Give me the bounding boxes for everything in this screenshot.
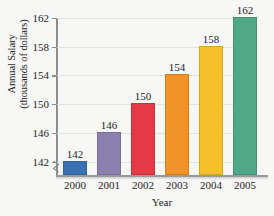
y-axis-line (56, 18, 58, 176)
bar-slot: 158 (199, 18, 223, 176)
y-axis-tick-label: 146 (33, 127, 50, 139)
bar[interactable]: 154 (165, 74, 189, 175)
x-axis-tick-label: 2005 (234, 179, 256, 191)
bar-value-label: 162 (237, 4, 254, 16)
bar[interactable]: 142 (63, 161, 87, 175)
y-axis-title-line-1: Annual Salary (6, 0, 18, 144)
y-axis-title: Annual Salary (thousands of dollars) (6, 0, 30, 144)
y-axis-tick (52, 104, 57, 105)
y-axis-tick (52, 75, 57, 76)
x-axis-title: Year (56, 196, 268, 208)
x-axis-line (56, 175, 268, 177)
bar-slot: 142 (63, 18, 87, 176)
axis-break-icon (52, 160, 62, 173)
bar-value-label: 154 (169, 61, 186, 73)
y-axis-tick (52, 47, 57, 48)
bar-slot: 146 (97, 18, 121, 176)
y-axis-tick (52, 18, 57, 19)
x-axis-tick-label: 2003 (166, 179, 188, 191)
bar-value-label: 142 (67, 148, 84, 160)
bar[interactable]: 146 (97, 132, 121, 175)
bar-slot: 154 (165, 18, 189, 176)
x-axis-tick-label: 2004 (200, 179, 222, 191)
bar-value-label: 158 (203, 33, 220, 45)
x-axis-tick-label: 2000 (64, 179, 86, 191)
y-axis-tick-label: 154 (33, 69, 50, 81)
bar[interactable]: 162 (233, 17, 257, 175)
y-axis-tick (52, 133, 57, 134)
bar[interactable]: 158 (199, 46, 223, 175)
bar-slot: 162 (233, 18, 257, 176)
bar-chart: Annual Salary (thousands of dollars) 142… (0, 0, 274, 216)
bar-value-label: 146 (101, 119, 118, 131)
bar-value-label: 150 (135, 90, 152, 102)
y-axis-title-line-2: (thousands of dollars) (18, 0, 30, 144)
y-axis-tick-label: 158 (33, 41, 50, 53)
y-axis-tick-label: 142 (33, 156, 50, 168)
x-axis-tick-label: 2002 (132, 179, 154, 191)
y-axis-tick-label: 162 (33, 12, 50, 24)
bar[interactable]: 150 (131, 103, 155, 175)
bar-slot: 150 (131, 18, 155, 176)
y-axis-tick-label: 150 (33, 98, 50, 110)
x-axis-tick-label: 2001 (98, 179, 120, 191)
plot-area: 142146150154158162 142146150154158162 20… (56, 18, 268, 176)
